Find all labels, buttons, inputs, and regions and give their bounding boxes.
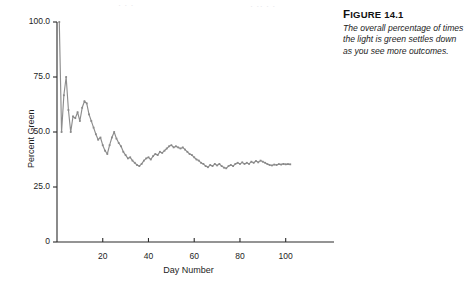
series-marker (271, 165, 273, 167)
series-marker (280, 164, 282, 166)
series-marker (106, 153, 108, 155)
y-tick-label: 0 (8, 236, 50, 246)
series-marker (269, 164, 271, 166)
series-marker (109, 144, 111, 146)
series-marker (239, 163, 241, 165)
series-marker (182, 147, 184, 149)
series-marker (134, 162, 136, 164)
series-line (59, 22, 290, 168)
series-marker (100, 137, 102, 139)
series-marker (77, 111, 79, 113)
figure-caption-title: FIGURE 14.1 (343, 8, 467, 20)
series-marker (154, 153, 156, 155)
series-marker (218, 163, 220, 165)
series-marker (113, 131, 115, 133)
series-marker (118, 142, 120, 144)
series-marker (186, 151, 188, 153)
series-marker (65, 76, 67, 78)
series-marker (84, 100, 86, 102)
series-marker (129, 156, 131, 158)
series-marker (125, 154, 127, 156)
figure-caption: FIGURE 14.1 The overall percentage of ti… (343, 8, 467, 57)
y-tick-label: 25.0 (8, 181, 50, 191)
series-marker (102, 144, 104, 146)
series-marker (214, 163, 216, 165)
series-marker (221, 165, 223, 167)
series-marker (168, 145, 170, 147)
series-marker (81, 107, 83, 109)
series-marker (200, 162, 202, 164)
series-marker (205, 165, 207, 167)
series-marker (164, 150, 166, 152)
series-marker (241, 161, 243, 163)
series-marker (198, 160, 200, 162)
series-marker (157, 154, 159, 156)
series-marker (95, 133, 97, 135)
series-marker (287, 163, 289, 165)
figure-number: 14.1 (384, 9, 403, 20)
series-marker (143, 160, 145, 162)
figure-label-rest: IGURE (350, 9, 381, 20)
series-marker (70, 131, 72, 133)
series-marker (145, 158, 147, 160)
series-marker (196, 159, 198, 161)
series-marker (189, 153, 191, 155)
series-marker (246, 162, 248, 164)
series-marker (136, 164, 138, 166)
series-marker (72, 115, 74, 117)
series-marker (278, 163, 280, 165)
x-tick-label: 20 (83, 251, 123, 261)
series-marker (253, 162, 255, 164)
series-marker (255, 160, 257, 162)
series-marker (225, 167, 227, 169)
x-tick-label: 40 (128, 251, 168, 261)
series-marker (209, 164, 211, 166)
series-marker (58, 21, 60, 23)
series-marker (90, 120, 92, 122)
series-marker (175, 145, 177, 147)
series-marker (250, 161, 252, 163)
series-marker (166, 148, 168, 150)
y-axis-title: Percent Green (26, 109, 36, 168)
figure-container: · · · · ·· · · Percent Green Day Number … (0, 0, 470, 285)
y-tick-label: 75.0 (8, 71, 50, 81)
series-marker (244, 163, 246, 165)
x-tick-label: 100 (266, 251, 306, 261)
series-marker (267, 163, 269, 165)
series-marker (104, 150, 106, 152)
series-marker (285, 163, 287, 165)
series-marker (230, 164, 232, 166)
series-marker (122, 151, 124, 153)
series-marker (68, 109, 70, 111)
series-marker (141, 163, 143, 165)
series-marker (232, 165, 234, 167)
series-marker (173, 147, 175, 149)
series-marker (97, 139, 99, 141)
series-marker (257, 161, 259, 163)
series-marker (276, 164, 278, 166)
series-marker (93, 127, 95, 129)
series-marker (237, 162, 239, 164)
x-tick-label: 60 (174, 251, 214, 261)
series-marker (132, 160, 134, 162)
series-marker (262, 161, 264, 163)
series-marker (127, 158, 129, 160)
series-marker (111, 137, 113, 139)
series-marker (202, 163, 204, 165)
series-marker (74, 117, 76, 119)
series-marker (177, 147, 179, 149)
line-chart: Percent Green Day Number 025.050.075.010… (0, 0, 340, 285)
series-marker (283, 163, 285, 165)
series-marker (170, 144, 172, 146)
series-marker (212, 165, 214, 167)
series-marker (120, 145, 122, 147)
series-marker (79, 120, 81, 122)
series-marker (61, 131, 63, 133)
series-marker (180, 148, 182, 150)
series-marker (228, 165, 230, 167)
series-marker (86, 103, 88, 105)
y-tick-label: 100.0 (8, 16, 50, 26)
series-marker (161, 152, 163, 154)
series-marker (289, 163, 291, 165)
series-marker (234, 163, 236, 165)
